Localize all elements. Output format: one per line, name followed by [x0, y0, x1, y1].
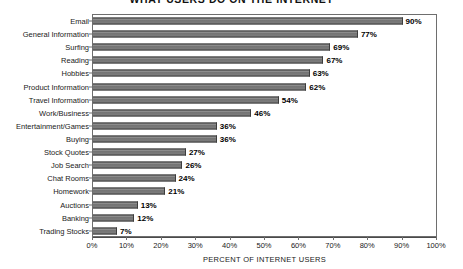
bar-row: Reading67% [0, 53, 463, 67]
bar [93, 44, 330, 51]
category-tick [89, 60, 92, 61]
category-label: Hobbies [61, 69, 89, 78]
bar-row: Trading Stocks7% [0, 224, 463, 238]
x-tick-mark [126, 237, 127, 240]
category-tick [89, 47, 92, 48]
x-tick-mark [298, 237, 299, 240]
category-label: Reading [61, 56, 89, 65]
x-tick-mark [333, 237, 334, 240]
bar-rows: Email90%General Information77%Surfing69%… [0, 14, 463, 237]
x-tick-label: 70% [325, 241, 340, 250]
x-tick-label: 40% [222, 241, 237, 250]
bar-value-label: 62% [309, 82, 325, 91]
bar-row: Banking12% [0, 211, 463, 225]
category-label: General Information [23, 30, 89, 39]
bar [93, 122, 217, 129]
category-label: Surfing [65, 43, 89, 52]
bar-value-label: 21% [168, 187, 184, 196]
bar [93, 214, 134, 221]
bar-value-label: 24% [179, 174, 195, 183]
x-tick-mark [161, 237, 162, 240]
category-tick [89, 34, 92, 35]
category-label: Entertainment/Games [16, 121, 89, 130]
x-tick-label: 0% [87, 241, 98, 250]
x-tick-label: 30% [188, 241, 203, 250]
bar-value-label: 7% [120, 226, 132, 235]
category-tick [89, 178, 92, 179]
category-label: Job Search [51, 161, 89, 170]
bar-value-label: 77% [361, 30, 377, 39]
category-label: Buying [66, 135, 89, 144]
bar [93, 83, 306, 90]
category-tick [89, 112, 92, 113]
bar-row: Work/Business46% [0, 106, 463, 120]
x-tick-label: 10% [119, 241, 134, 250]
x-tick-label: 80% [360, 241, 375, 250]
bar-row: Hobbies63% [0, 66, 463, 80]
x-tick-label: 50% [256, 241, 271, 250]
category-label: Chat Rooms [47, 174, 89, 183]
x-tick-mark [230, 237, 231, 240]
bar-value-label: 36% [220, 121, 236, 130]
x-tick-mark [195, 237, 196, 240]
bar-value-label: 54% [282, 95, 298, 104]
bar-value-label: 13% [141, 200, 157, 209]
bar-value-label: 26% [185, 161, 201, 170]
x-tick-mark [436, 237, 437, 240]
category-label: Product Information [24, 82, 89, 91]
category-tick [89, 230, 92, 231]
bar [93, 175, 176, 182]
bar-value-label: 27% [189, 148, 205, 157]
bar [93, 109, 251, 116]
category-label: Homework [53, 187, 89, 196]
category-tick [89, 73, 92, 74]
bar-row: Chat Rooms24% [0, 171, 463, 185]
bar-row: Surfing69% [0, 40, 463, 54]
x-tick-label: 90% [394, 241, 409, 250]
bar-row: Entertainment/Games36% [0, 119, 463, 133]
category-label: Work/Business [39, 108, 89, 117]
category-label: Banking [62, 213, 89, 222]
bar [93, 162, 182, 169]
category-tick [89, 165, 92, 166]
bar-value-label: 46% [254, 108, 270, 117]
x-tick-label: 20% [153, 241, 168, 250]
bar [93, 31, 358, 38]
x-tick-label: 60% [291, 241, 306, 250]
bar-row: General Information77% [0, 27, 463, 41]
category-tick [89, 204, 92, 205]
category-tick [89, 217, 92, 218]
bar-row: Email90% [0, 14, 463, 28]
x-tick-label: 100% [426, 241, 445, 250]
category-tick [89, 99, 92, 100]
category-tick [89, 152, 92, 153]
x-axis-title: PERCENT OF INTERNET USERS [92, 255, 437, 264]
category-tick [89, 20, 92, 21]
bar [93, 227, 117, 234]
bar-value-label: 90% [406, 16, 422, 25]
category-tick [89, 86, 92, 87]
x-tick-mark [92, 237, 93, 240]
bar-value-label: 69% [333, 43, 349, 52]
bar-value-label: 67% [326, 56, 342, 65]
bar [93, 70, 310, 77]
category-tick [89, 191, 92, 192]
bar-row: Buying36% [0, 132, 463, 146]
bar-chart: WHAT USERS DO ON THE INTERNET Email90%Ge… [0, 0, 463, 269]
bar-row: Job Search26% [0, 158, 463, 172]
bar-row: Homework21% [0, 185, 463, 199]
x-tick-mark [402, 237, 403, 240]
category-label: Trading Stocks [39, 226, 89, 235]
category-label: Auctions [60, 200, 89, 209]
category-tick [89, 139, 92, 140]
category-label: Email [70, 16, 89, 25]
category-label: Stock Quotes [44, 148, 89, 157]
bar-value-label: 36% [220, 135, 236, 144]
bar [93, 201, 138, 208]
bar [93, 96, 279, 103]
bar-row: Travel Information54% [0, 93, 463, 107]
bar [93, 136, 217, 143]
category-label: Travel Information [29, 95, 89, 104]
x-tick-mark [367, 237, 368, 240]
bar [93, 149, 186, 156]
